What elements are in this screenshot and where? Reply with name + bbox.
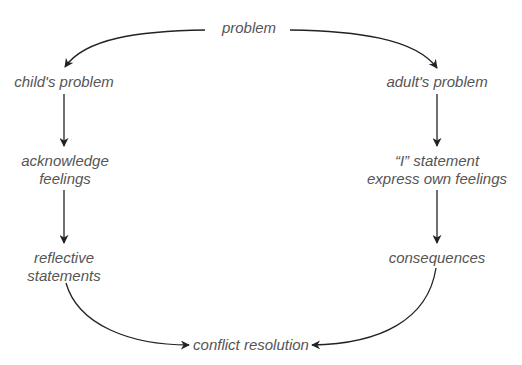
node-conflict-resolution-text: conflict resolution <box>193 336 309 354</box>
node-childs-problem-text: child's problem <box>14 73 114 91</box>
node-i-statement: “I” statement express own feelings <box>367 152 507 188</box>
arrow-root-to-child <box>65 30 205 67</box>
node-consequences-text: consequences <box>389 249 486 267</box>
node-reflective-line1: reflective <box>27 249 100 267</box>
flowchart-diagram: problem child's problem adult's problem … <box>0 0 522 365</box>
arrow-consequences-to-resolution <box>312 268 436 345</box>
node-reflective-line2: statements <box>27 267 100 285</box>
node-acknowledge-feelings: acknowledge feelings <box>21 152 109 188</box>
node-adults-problem: adult's problem <box>386 73 487 91</box>
node-consequences: consequences <box>389 249 486 267</box>
node-reflective-statements: reflective statements <box>27 249 100 285</box>
node-acknowledge-line1: acknowledge <box>21 152 109 170</box>
node-problem: problem <box>222 19 276 37</box>
node-conflict-resolution: conflict resolution <box>193 336 309 354</box>
node-i-statement-line2: express own feelings <box>367 170 507 188</box>
node-problem-text: problem <box>222 19 276 37</box>
arrow-reflective-to-resolution <box>66 283 189 345</box>
node-childs-problem: child's problem <box>14 73 114 91</box>
node-acknowledge-line2: feelings <box>21 170 109 188</box>
node-adults-problem-text: adult's problem <box>386 73 487 91</box>
arrow-root-to-adult <box>290 30 437 68</box>
node-i-statement-line1: “I” statement <box>367 152 507 170</box>
